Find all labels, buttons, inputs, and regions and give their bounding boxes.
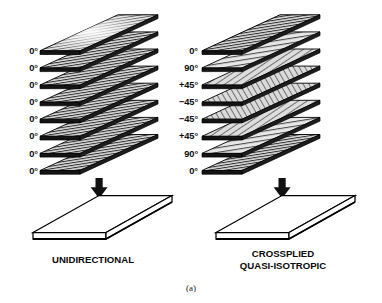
laminate-slab-right (216, 196, 355, 240)
laminate-slab-left (33, 196, 172, 240)
ply-angle-label: +45° (150, 81, 198, 98)
ply-angle-label: 0° (4, 167, 38, 184)
ply-angle-label: 90° (150, 64, 198, 81)
ply-angle-label: 0° (4, 81, 38, 98)
ply-angle-label: 0° (4, 47, 38, 64)
ply-angle-label: +45° (150, 132, 198, 149)
caption-line: QUASI-ISOTROPIC (198, 260, 368, 272)
caption-unidirectional: UNIDIRECTIONAL (8, 254, 178, 266)
ply-angle-label: 0° (150, 47, 198, 64)
laminate-figure: 0° 0° 0° 0° 0° 0° 0° 0° 0° 90° +45° −45°… (0, 0, 382, 303)
ply-angle-labels-crossplied: 0° 90° +45° −45° −45° +45° 90° 0° (150, 47, 198, 184)
caption-line: UNIDIRECTIONAL (8, 254, 178, 266)
ply-angle-label: 0° (4, 150, 38, 167)
ply-angle-label: 0° (4, 115, 38, 132)
stack-crossplied-quasi-isotropic (202, 15, 355, 239)
ply-angle-label: 0° (4, 132, 38, 149)
ply-angle-label: 0° (4, 98, 38, 115)
ply-angle-label: 0° (4, 64, 38, 81)
ply-angle-label: −45° (150, 98, 198, 115)
ply-angle-labels-unidirectional: 0° 0° 0° 0° 0° 0° 0° 0° (4, 47, 38, 184)
caption-crossplied-quasi-isotropic: CROSSPLIED QUASI-ISOTROPIC (198, 248, 368, 271)
ply-angle-label: −45° (150, 115, 198, 132)
figure-letter: (a) (0, 283, 382, 293)
ply-angle-label: 90° (150, 150, 198, 167)
ply-angle-label: 0° (150, 167, 198, 184)
caption-line: CROSSPLIED (198, 248, 368, 260)
